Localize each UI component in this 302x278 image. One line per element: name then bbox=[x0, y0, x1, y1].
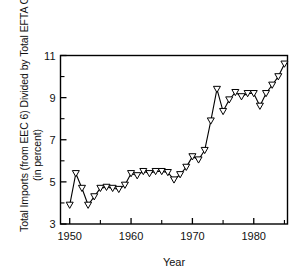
data-point-marker bbox=[134, 173, 141, 179]
data-point-marker bbox=[207, 118, 214, 124]
data-point-marker bbox=[171, 177, 178, 183]
data-point-marker bbox=[256, 103, 263, 109]
chart-plot-area: 357911 1950196019701980 Year bbox=[0, 0, 302, 278]
y-axis-tick-labels: 357911 bbox=[44, 50, 55, 231]
y-axis-major-ticks bbox=[61, 56, 67, 225]
data-point-marker bbox=[128, 171, 135, 177]
data-point-marker bbox=[269, 82, 276, 88]
data-series-markers bbox=[66, 61, 288, 208]
data-point-marker bbox=[78, 185, 85, 191]
data-point-marker bbox=[146, 171, 153, 177]
data-point-marker bbox=[91, 194, 98, 200]
data-series-line bbox=[70, 64, 285, 205]
data-point-marker bbox=[220, 108, 227, 114]
data-point-marker bbox=[66, 202, 73, 208]
chart-figure: Total Imports (from EEC 6) Divided by To… bbox=[0, 0, 302, 278]
data-point-marker bbox=[226, 97, 233, 103]
data-point-marker bbox=[72, 171, 79, 177]
data-point-marker bbox=[85, 202, 92, 208]
y-tick-label-11: 11 bbox=[44, 50, 55, 62]
x-tick-label-1950: 1950 bbox=[57, 230, 81, 242]
x-tick-label-1980: 1980 bbox=[242, 230, 266, 242]
y-tick-label-7: 7 bbox=[49, 134, 55, 146]
x-tick-label-1960: 1960 bbox=[119, 230, 143, 242]
x-axis-tick-labels: 1950196019701980 bbox=[57, 230, 266, 242]
x-tick-label-1970: 1970 bbox=[180, 230, 204, 242]
data-point-marker bbox=[213, 86, 220, 92]
data-point-marker bbox=[263, 91, 270, 97]
data-point-marker bbox=[121, 182, 128, 188]
data-point-marker bbox=[140, 168, 147, 174]
data-point-marker bbox=[195, 157, 202, 163]
y-tick-label-5: 5 bbox=[49, 176, 55, 188]
y-tick-label-3: 3 bbox=[49, 218, 55, 230]
data-point-marker bbox=[97, 185, 104, 191]
data-point-marker bbox=[238, 94, 245, 100]
x-axis-title: Year bbox=[163, 256, 186, 268]
data-point-marker bbox=[201, 147, 208, 153]
y-tick-label-9: 9 bbox=[49, 92, 55, 104]
data-point-marker bbox=[275, 74, 282, 80]
data-point-marker bbox=[115, 186, 122, 192]
